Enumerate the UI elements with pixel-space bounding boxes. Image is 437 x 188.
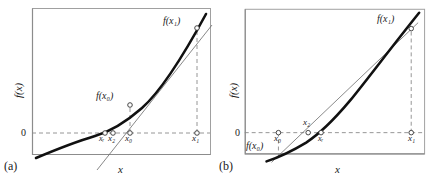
panel-b-label-fx1: f(x₁)	[377, 14, 394, 24]
panel-a-label-x2: x₂	[108, 134, 115, 143]
panel-a-newton-method: f(x) 0 x (a) xᵣ x₂ x₀ x₁ f(x₀) f(x₁)	[0, 0, 218, 188]
panel-a-label-x1: x₁	[192, 134, 199, 143]
panel-b-point-x2	[306, 130, 311, 135]
panel-b-x-axis-label: x	[335, 163, 340, 175]
panel-b-label-x1: x₁	[408, 134, 415, 143]
panel-b-secant-method: f(x) 0 x (b) x₀ x₂ xᵣ x₁ f(x₀) f(x₁)	[217, 0, 435, 188]
panel-a-label-x0: x₀	[125, 134, 132, 143]
panel-b-label-fx0: f(x₀)	[246, 141, 263, 151]
figure-root-finding-methods: f(x) 0 x (a) xᵣ x₂ x₀ x₁ f(x₀) f(x₁)	[0, 0, 437, 188]
panel-a-axis-spines	[33, 9, 211, 155]
panel-a-label-xr: xᵣ	[99, 135, 105, 143]
panel-b-function-curve	[267, 13, 420, 162]
panel-a-x-axis-label: x	[118, 163, 123, 175]
panel-a-point-fx0	[128, 103, 133, 108]
panel-a-function-curve	[36, 14, 206, 158]
panel-a-tangent-line	[97, 25, 212, 170]
panel-a-y-axis-label: f(x)	[12, 83, 24, 98]
panel-b-plot-canvas	[217, 0, 435, 188]
panel-b-label-xr: xᵣ	[318, 135, 324, 143]
panel-b-label-x2: x₂	[303, 118, 310, 127]
panel-a-zero-tick-label: 0	[21, 127, 26, 138]
panel-a-tag: (a)	[4, 159, 17, 174]
panel-b-y-axis-label: f(x)	[227, 83, 239, 98]
panel-b-point-fx1	[409, 26, 414, 31]
panel-a-label-fx1: f(x₁)	[163, 16, 180, 26]
panel-a-label-fx0: f(x₀)	[96, 91, 113, 101]
panel-a-plot-frame	[33, 9, 211, 155]
panel-b-tag: (b)	[219, 159, 233, 174]
panel-a-point-fx1	[195, 26, 200, 31]
panel-b-label-x0: x₀	[274, 134, 281, 143]
panel-b-zero-tick-label: 0	[235, 127, 240, 138]
